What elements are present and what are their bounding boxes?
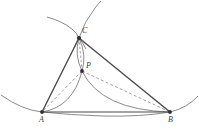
side-AC — [42, 38, 79, 112]
vertex-dot-B — [168, 110, 172, 114]
geometry-figure: A B C P — [0, 0, 199, 136]
inner-arcs — [42, 71, 170, 112]
point-label-P: P — [86, 62, 91, 70]
point-label-B: B — [168, 116, 173, 124]
arc-upper-left-C — [47, 17, 79, 38]
point-label-C: C — [82, 27, 87, 35]
point-label-A: A — [39, 116, 44, 124]
vertex-dot-P — [80, 69, 84, 73]
arc-through-B — [103, 96, 198, 116]
background-arcs — [1, 1, 198, 116]
arc-through-A — [1, 95, 103, 116]
cevian-PA — [42, 71, 82, 112]
vertex-dot-A — [40, 110, 44, 114]
side-CB — [79, 38, 170, 112]
vertex-dot-C — [77, 36, 81, 40]
triangle-ABC — [42, 38, 170, 112]
